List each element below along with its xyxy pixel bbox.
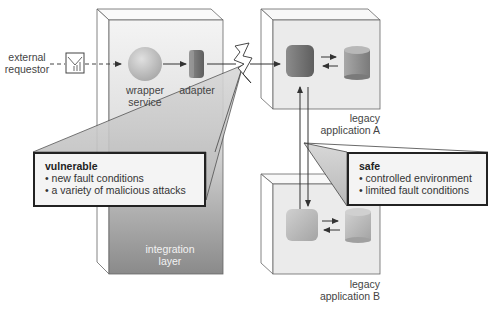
- callout-item: a variety of malicious attacks: [45, 184, 204, 196]
- callout-title: safe: [359, 160, 486, 172]
- label-line: layer: [130, 255, 210, 267]
- label-line: external: [4, 51, 50, 63]
- integration-layer-label: integration layer: [130, 243, 210, 267]
- legacy-app-a-label: legacy application A: [300, 112, 380, 136]
- sphere-icon: [128, 47, 162, 81]
- label-line: wrapper: [120, 84, 170, 96]
- adapter-label: adapter: [175, 84, 219, 96]
- cylinder-block-icon: [189, 50, 204, 78]
- safe-callout: safe controlled environment limited faul…: [347, 152, 488, 206]
- label-line: application A: [300, 124, 380, 136]
- external-requestor-label: external requestor: [4, 51, 50, 75]
- database-cylinder-icon-b: [345, 208, 371, 243]
- legacy-app-b-label: legacy application B: [300, 278, 380, 302]
- label-line: application B: [300, 290, 380, 302]
- callout-item: new fault conditions: [45, 172, 204, 184]
- vulnerable-callout: vulnerable new fault conditions a variet…: [33, 152, 206, 207]
- label-line: service: [120, 96, 170, 108]
- wrapper-service-label: wrapper service: [120, 84, 170, 108]
- envelope-icon: [66, 53, 84, 73]
- callout-title: vulnerable: [45, 160, 204, 172]
- label-line: legacy: [300, 278, 380, 290]
- database-cylinder-icon-a: [344, 46, 370, 80]
- callout-item: controlled environment: [359, 172, 486, 184]
- rounded-cube-icon-a: [286, 45, 314, 77]
- callout-item: limited fault conditions: [359, 184, 486, 196]
- label-line: integration: [130, 243, 210, 255]
- rounded-cube-icon-b: [286, 209, 318, 241]
- label-line: requestor: [4, 63, 50, 75]
- label-line: legacy: [300, 112, 380, 124]
